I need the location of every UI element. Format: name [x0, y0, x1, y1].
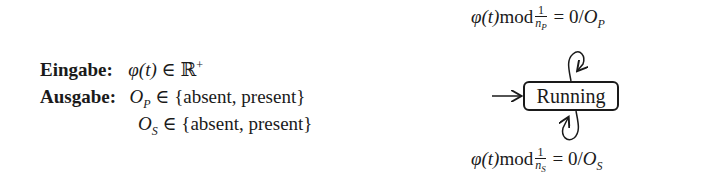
state-running: Running [523, 81, 619, 111]
self-loop-bottom-icon [563, 111, 579, 140]
self-loop-top-icon [569, 52, 584, 81]
state-label: Running [537, 85, 606, 108]
